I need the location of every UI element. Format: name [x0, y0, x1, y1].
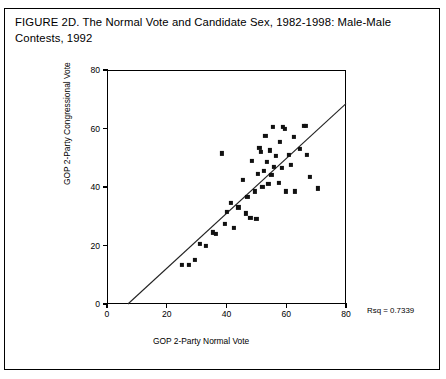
data-point: [254, 217, 258, 221]
data-point: [293, 189, 297, 193]
data-point: [260, 185, 264, 189]
data-point: [245, 195, 249, 199]
data-point: [278, 140, 282, 144]
data-point: [259, 150, 263, 154]
data-point: [187, 262, 191, 266]
data-point: [223, 221, 227, 225]
data-point: [203, 243, 207, 247]
y-tick-label: 0: [95, 299, 100, 309]
data-point: [220, 151, 224, 155]
data-point: [274, 154, 278, 158]
y-tick-label: 40: [90, 182, 100, 192]
y-axis-title: GOP 2-Party Congressional Vote: [62, 62, 72, 185]
data-point: [298, 147, 302, 151]
data-point: [229, 201, 233, 205]
data-point: [269, 173, 273, 177]
data-point: [250, 159, 254, 163]
data-point: [262, 169, 266, 173]
data-point: [268, 148, 272, 152]
data-point: [248, 216, 252, 220]
data-point: [277, 181, 281, 185]
data-point: [193, 258, 197, 262]
y-tick-label: 60: [90, 124, 100, 134]
data-point: [287, 153, 291, 157]
data-point: [253, 189, 257, 193]
data-point: [280, 166, 284, 170]
x-tick-label: 80: [341, 309, 351, 319]
data-point: [263, 134, 267, 138]
scatter-plot: 020406080 020406080: [107, 70, 346, 304]
rsq-annotation: Rsq = 0.7339: [367, 306, 414, 315]
data-point: [256, 172, 260, 176]
data-point: [305, 153, 309, 157]
data-point: [284, 189, 288, 193]
data-point: [316, 186, 320, 190]
data-point: [236, 205, 240, 209]
data-point: [241, 178, 245, 182]
data-point: [214, 232, 218, 236]
regression-line: [107, 70, 346, 304]
data-point: [292, 135, 296, 139]
data-point: [283, 126, 287, 130]
data-point: [272, 164, 276, 168]
data-point: [271, 125, 275, 129]
y-tick-label: 80: [90, 65, 100, 75]
data-point: [265, 160, 269, 164]
data-point: [232, 226, 236, 230]
x-tick-label: 40: [222, 309, 232, 319]
data-point: [266, 182, 270, 186]
data-point: [304, 123, 308, 127]
y-tick-label: 20: [90, 241, 100, 251]
figure-title: FIGURE 2D. The Normal Vote and Candidate…: [15, 15, 425, 46]
data-point: [308, 175, 312, 179]
data-point: [224, 210, 228, 214]
x-tick-label: 60: [281, 309, 291, 319]
data-point: [289, 163, 293, 167]
x-tick-label: 0: [105, 309, 110, 319]
x-tick-label: 20: [162, 309, 172, 319]
data-point: [180, 262, 184, 266]
data-point: [198, 242, 202, 246]
x-axis-title: GOP 2-Party Normal Vote: [153, 336, 249, 346]
figure-frame: FIGURE 2D. The Normal Vote and Candidate…: [4, 8, 440, 370]
